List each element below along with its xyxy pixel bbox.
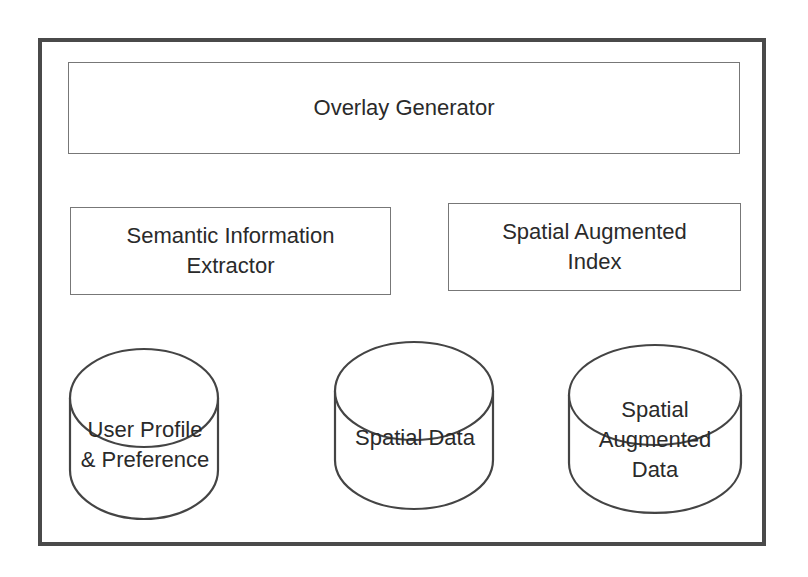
spatial-aug-label-line3: Data [599, 455, 712, 485]
user-profile-label-line2: & Preference [81, 445, 209, 475]
spatial-data-store-label: Spatial Data [335, 420, 495, 456]
database-cylinders [0, 0, 808, 577]
user-profile-store-label: User Profile & Preference [70, 412, 220, 478]
spatial-data-label: Spatial Data [355, 423, 475, 453]
user-profile-label-line1: User Profile [81, 415, 209, 445]
spatial-aug-label-line1: Spatial [599, 395, 712, 425]
spatial-aug-label-line2: Augmented [599, 425, 712, 455]
spatial-augmented-data-store-label: Spatial Augmented Data [569, 390, 741, 490]
